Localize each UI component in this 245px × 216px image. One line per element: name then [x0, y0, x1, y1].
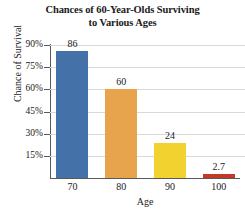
bar-90[interactable]: [154, 143, 186, 178]
x-tick-label: 80: [97, 181, 145, 192]
chart-title-line-1: Chances of 60-Year-Olds Surviving: [0, 3, 245, 16]
x-tick-label: 100: [195, 181, 243, 192]
plot-area: [50, 45, 245, 178]
chart-title-line-2: to Various Ages: [0, 16, 245, 29]
bar-value-label: 24: [146, 130, 194, 141]
x-tick-label: 90: [146, 181, 194, 192]
y-tick-label: 90%: [2, 40, 43, 49]
bar-value-label: 2.7: [195, 161, 243, 172]
chart-title: Chances of 60-Year-Olds Surviving to Var…: [0, 3, 245, 29]
bar-80[interactable]: [105, 89, 137, 178]
x-tick-label: 70: [48, 181, 96, 192]
x-axis-title: Age: [50, 196, 240, 207]
y-tick-label: 45%: [2, 107, 43, 116]
x-axis-line: [50, 178, 240, 179]
bar-70[interactable]: [56, 51, 88, 178]
bar-100[interactable]: [203, 174, 235, 178]
y-tick-label: 60%: [2, 84, 43, 93]
bar-value-label: 60: [97, 76, 145, 87]
y-tick-label: 30%: [2, 129, 43, 138]
y-tick-label: 75%: [2, 62, 43, 71]
bar-value-label: 86: [48, 38, 96, 49]
y-tick-label: 15%: [2, 151, 43, 160]
